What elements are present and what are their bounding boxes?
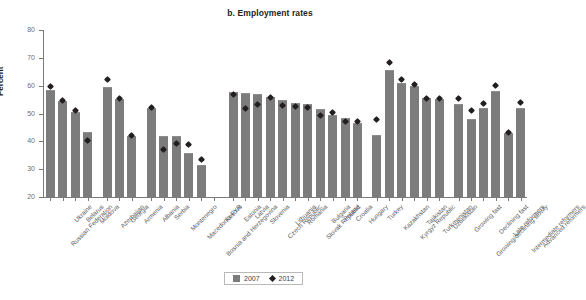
data-point-marker bbox=[373, 116, 380, 123]
bar bbox=[479, 108, 488, 197]
bar bbox=[397, 83, 406, 197]
x-tick-label: Turkey bbox=[386, 203, 405, 222]
x-tick bbox=[459, 197, 460, 201]
x-tick bbox=[63, 197, 64, 201]
x-tick bbox=[201, 197, 202, 201]
legend-item-2012[interactable]: 2012 bbox=[270, 275, 295, 282]
x-tick bbox=[414, 197, 415, 201]
x-tick bbox=[50, 197, 51, 201]
x-tick bbox=[521, 197, 522, 201]
bar bbox=[159, 136, 168, 197]
y-tick-label: 70 bbox=[9, 54, 35, 61]
chart-legend: 2007 2012 bbox=[224, 272, 303, 285]
bar bbox=[316, 109, 325, 197]
x-tick bbox=[270, 197, 271, 201]
bar bbox=[197, 165, 206, 197]
x-tick bbox=[119, 197, 120, 201]
legend-label-2007: 2007 bbox=[244, 275, 260, 282]
data-point-marker bbox=[185, 141, 192, 148]
data-point-marker bbox=[455, 95, 462, 102]
bar bbox=[127, 136, 136, 197]
bar bbox=[184, 153, 193, 197]
x-tick bbox=[107, 197, 108, 201]
bar bbox=[278, 100, 287, 197]
y-tick-label: 20 bbox=[9, 193, 35, 200]
x-tick bbox=[402, 197, 403, 201]
x-tick bbox=[189, 197, 190, 201]
bar bbox=[504, 133, 513, 197]
data-point-marker bbox=[198, 156, 205, 163]
y-tick-label: 40 bbox=[9, 137, 35, 144]
bar bbox=[435, 99, 444, 197]
x-tick bbox=[283, 197, 284, 201]
bar bbox=[58, 101, 67, 197]
bar bbox=[467, 119, 476, 197]
x-tick bbox=[164, 197, 165, 201]
y-tick-label: 30 bbox=[9, 165, 35, 172]
x-tick bbox=[88, 197, 89, 201]
x-tick bbox=[320, 197, 321, 201]
bar bbox=[385, 70, 394, 197]
data-point-marker bbox=[386, 59, 393, 66]
y-tick bbox=[39, 197, 44, 198]
y-tick-label: 50 bbox=[9, 110, 35, 117]
chart-title: b. Employment rates bbox=[0, 8, 540, 18]
x-tick bbox=[233, 197, 234, 201]
diamond-marker-icon bbox=[269, 275, 276, 282]
x-tick bbox=[214, 197, 215, 201]
x-tick bbox=[132, 197, 133, 201]
data-point-marker bbox=[467, 107, 474, 114]
legend-item-2007[interactable]: 2007 bbox=[233, 275, 260, 282]
bar bbox=[229, 92, 238, 197]
bar bbox=[454, 104, 463, 197]
bar bbox=[115, 99, 124, 197]
bar bbox=[328, 115, 337, 197]
plot-area bbox=[44, 30, 527, 197]
x-tick bbox=[439, 197, 440, 201]
bar bbox=[147, 108, 156, 197]
x-axis-line bbox=[43, 197, 527, 198]
x-tick-label: Advanced reformers bbox=[541, 203, 586, 249]
x-tick bbox=[377, 197, 378, 201]
bar bbox=[341, 118, 350, 197]
bar bbox=[103, 87, 112, 197]
x-tick bbox=[333, 197, 334, 201]
x-tick bbox=[389, 197, 390, 201]
y-tick-label: 60 bbox=[9, 82, 35, 89]
x-tick bbox=[75, 197, 76, 201]
bar bbox=[353, 123, 362, 197]
bar bbox=[516, 108, 525, 197]
x-tick bbox=[176, 197, 177, 201]
bar bbox=[71, 112, 80, 197]
x-tick bbox=[483, 197, 484, 201]
data-point-marker bbox=[480, 100, 487, 107]
bar bbox=[410, 86, 419, 197]
x-tick bbox=[308, 197, 309, 201]
x-tick bbox=[151, 197, 152, 201]
data-point-marker bbox=[492, 82, 499, 89]
bar bbox=[253, 94, 262, 197]
y-axis-title: Percent bbox=[0, 67, 5, 96]
x-tick bbox=[471, 197, 472, 201]
bar bbox=[422, 98, 431, 197]
x-tick bbox=[345, 197, 346, 201]
square-marker-icon bbox=[233, 275, 240, 282]
x-tick bbox=[245, 197, 246, 201]
x-tick bbox=[258, 197, 259, 201]
bar bbox=[372, 135, 381, 197]
data-point-marker bbox=[517, 99, 524, 106]
y-tick-label: 80 bbox=[9, 26, 35, 33]
x-tick bbox=[496, 197, 497, 201]
x-tick-label: Kosovo bbox=[223, 203, 243, 223]
x-tick bbox=[295, 197, 296, 201]
data-point-marker bbox=[103, 76, 110, 83]
x-tick bbox=[357, 197, 358, 201]
bar bbox=[266, 97, 275, 197]
data-point-marker bbox=[47, 83, 54, 90]
x-tick bbox=[427, 197, 428, 201]
legend-label-2012: 2012 bbox=[279, 275, 295, 282]
x-tick bbox=[508, 197, 509, 201]
bar bbox=[291, 103, 300, 197]
bar bbox=[491, 91, 500, 197]
